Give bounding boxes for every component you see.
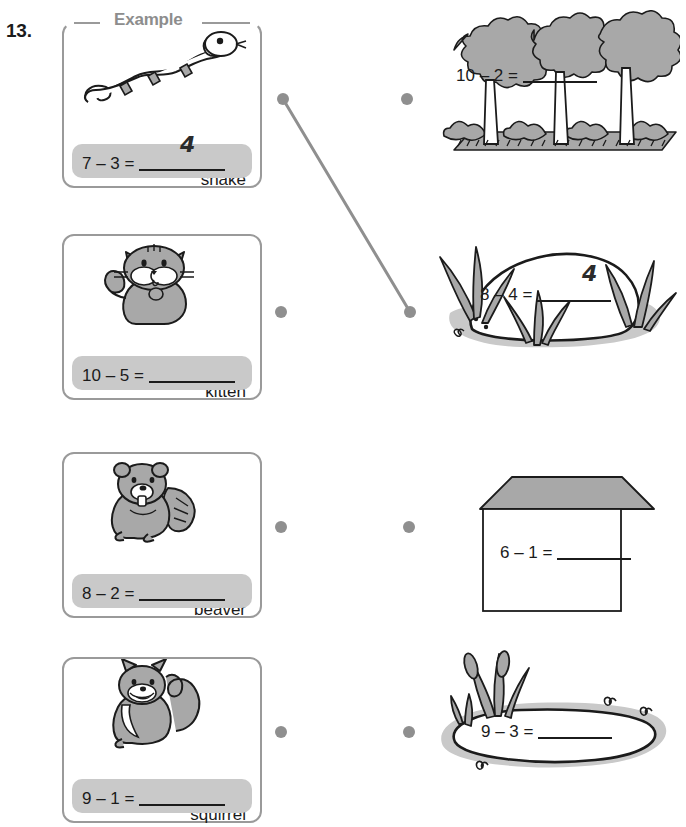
connector-dot-forest[interactable] — [401, 93, 413, 105]
connector-dot-squirrel[interactable] — [275, 726, 287, 738]
equation-expression: 9 – 3 = — [481, 722, 533, 741]
habitat-scene-forest[interactable]: 10 – 2 = — [440, 10, 680, 180]
equation-text: 9 – 1 = — [82, 789, 225, 809]
kitten-icon — [64, 236, 260, 328]
handwritten-answer: 4 — [582, 261, 597, 286]
connector-dot-house[interactable] — [403, 521, 415, 533]
answer-blank[interactable] — [557, 558, 631, 560]
scene-equation: 8 – 4 = — [480, 285, 611, 305]
answer-blank[interactable] — [139, 169, 225, 171]
question-number: 13. — [6, 20, 32, 42]
connector-dot-lodge[interactable] — [404, 306, 416, 318]
scene-equation: 6 – 1 = — [500, 543, 631, 563]
connector-dot-kitten[interactable] — [275, 306, 287, 318]
animal-card-kitten[interactable]: kitten 10 – 5 = — [62, 234, 262, 400]
forest-trees-icon — [440, 10, 680, 180]
snake-icon — [64, 24, 260, 116]
answer-blank[interactable] — [139, 599, 225, 601]
animal-card-snake[interactable]: Example snake 7 – 3 = 4 — [62, 22, 262, 188]
scene-equation: 10 – 2 = — [456, 66, 597, 86]
scene-equation: 9 – 3 = — [481, 722, 612, 742]
equation-expression: 9 – 1 = — [82, 789, 134, 808]
equation-bar-squirrel: 9 – 1 = — [72, 779, 252, 813]
equation-bar-kitten: 10 – 5 = — [72, 356, 252, 390]
answer-blank[interactable] — [538, 737, 612, 739]
habitat-scene-lodge[interactable]: 8 – 4 = 4 — [430, 235, 680, 360]
answer-blank[interactable] — [149, 381, 235, 383]
equation-text: 7 – 3 = — [82, 154, 225, 174]
equation-bar-snake: 7 – 3 = 4 — [72, 144, 252, 178]
equation-expression: 6 – 1 = — [500, 543, 552, 562]
animal-card-squirrel[interactable]: squirrel 9 – 1 = — [62, 657, 262, 823]
equation-expression: 10 – 2 = — [456, 66, 518, 85]
equation-expression: 7 – 3 = — [82, 154, 134, 173]
equation-expression: 8 – 4 = — [480, 285, 532, 304]
handwritten-answer: 4 — [180, 132, 195, 157]
connector-dot-beaver[interactable] — [275, 521, 287, 533]
equation-expression: 10 – 5 = — [82, 366, 144, 385]
beaver-icon — [64, 454, 260, 546]
squirrel-icon — [64, 659, 260, 751]
equation-text: 8 – 2 = — [82, 584, 225, 604]
answer-blank[interactable] — [537, 300, 611, 302]
answer-blank[interactable] — [523, 81, 597, 83]
habitat-scene-house[interactable]: 6 – 1 = — [450, 465, 680, 620]
equation-expression: 8 – 2 = — [82, 584, 134, 603]
answer-blank[interactable] — [139, 804, 225, 806]
equation-bar-beaver: 8 – 2 = — [72, 574, 252, 608]
connector-dot-snake[interactable] — [277, 93, 289, 105]
connector-dot-pond[interactable] — [403, 726, 415, 738]
habitat-scene-pond[interactable]: 9 – 3 = — [425, 650, 680, 795]
animal-card-beaver[interactable]: beaver 8 – 2 = — [62, 452, 262, 618]
equation-text: 10 – 5 = — [82, 366, 235, 386]
